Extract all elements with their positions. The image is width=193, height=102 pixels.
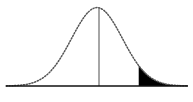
normal-distribution-figure: Normal distribution curve with shaded ri…: [0, 0, 193, 102]
distribution-plot: [0, 0, 193, 102]
